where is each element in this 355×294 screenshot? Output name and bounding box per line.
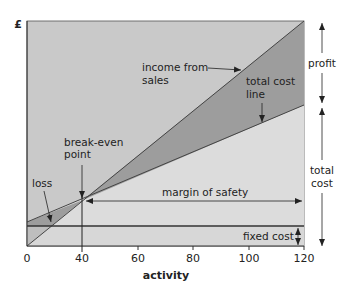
y-axis-title: £ (14, 18, 22, 31)
x-tick-120: 120 (294, 252, 315, 265)
x-tick-40: 40 (75, 252, 89, 265)
fixed-cost-label: fixed cost (243, 230, 294, 242)
profit-label: profit (308, 57, 336, 69)
total-cost-label-line2: line (246, 88, 265, 100)
x-tick-60: 60 (131, 252, 145, 265)
margin-of-safety-label: margin of safety (162, 186, 248, 198)
x-tick-80: 80 (186, 252, 200, 265)
x-tick-0: 0 (24, 252, 31, 265)
x-axis-title: activity (143, 269, 189, 282)
break-even-label-line2: point (64, 148, 91, 160)
income-label-line2: sales (142, 74, 169, 86)
x-tick-100: 100 (239, 252, 260, 265)
total-cost-right-line2: cost (311, 177, 333, 189)
income-label-line1: income from (142, 61, 208, 73)
total-cost-label-line1: total cost (246, 75, 295, 87)
break-even-chart: 0 40 60 80 100 120 activity £ income fro… (0, 0, 355, 294)
total-cost-right-line1: total (310, 164, 334, 176)
loss-label: loss (32, 177, 52, 189)
break-even-label-line1: break-even (64, 136, 123, 148)
